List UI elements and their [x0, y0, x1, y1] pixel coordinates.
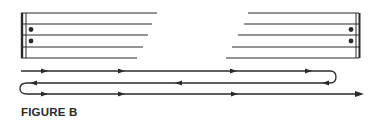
- arrow-right-icon: [305, 69, 312, 74]
- repeat-dot: [29, 39, 34, 44]
- figure-caption: FIGURE B: [21, 106, 78, 118]
- arrow-right-icon: [41, 69, 48, 74]
- arrow-right-icon: [118, 92, 125, 97]
- right-staff: [226, 13, 360, 58]
- left-staff: [21, 13, 157, 58]
- repeat-dot: [349, 27, 354, 32]
- left-u-turn: [20, 83, 27, 94]
- repeat-dot: [349, 39, 354, 44]
- arrow-end-icon: [355, 91, 364, 97]
- arrow-right-icon: [41, 92, 48, 97]
- repeat-dot: [29, 27, 34, 32]
- arrow-left-icon: [175, 81, 182, 86]
- arrow-left-icon: [322, 81, 329, 86]
- arrow-right-icon: [230, 69, 237, 74]
- arrow-left-icon: [30, 81, 37, 86]
- arrow-right-icon: [231, 92, 238, 97]
- playback-path: [20, 71, 360, 94]
- arrow-right-icon: [118, 69, 125, 74]
- right-u-turn: [330, 71, 336, 83]
